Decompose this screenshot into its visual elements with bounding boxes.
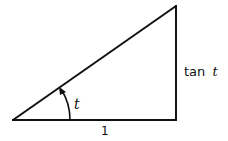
angle-label: t	[74, 96, 80, 112]
adjacent-side-label: 1	[101, 124, 109, 138]
hypotenuse	[13, 6, 176, 120]
opposite-side-label: tan t	[184, 64, 218, 79]
arrowhead-icon	[59, 87, 66, 95]
triangle-diagram: t tan t 1	[0, 0, 228, 141]
triangle	[12, 5, 177, 121]
